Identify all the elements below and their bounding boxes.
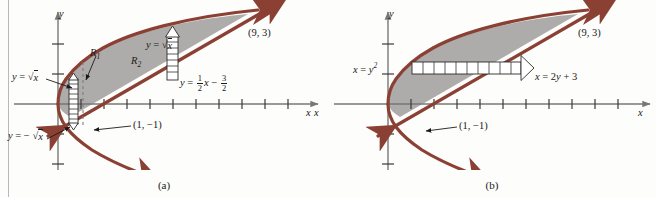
vertical-strip-r1 bbox=[69, 73, 78, 130]
panel-a: y = √x y = − √x y = √x R1 R2 y = 12x − 3… bbox=[0, 0, 328, 197]
figure-container: y = √x y = − √x y = √x R1 R2 y = 12x − 3… bbox=[0, 0, 656, 197]
leader-point-low-a bbox=[94, 126, 131, 130]
label-line-b: x = 2y + 3 bbox=[535, 72, 577, 83]
label-parabola-b: x = y2 bbox=[353, 62, 377, 75]
label-x-axis-right-a: x bbox=[306, 108, 311, 119]
caption-b: (b) bbox=[328, 179, 656, 191]
label-region-1: R1 bbox=[90, 48, 100, 61]
label-point-1-neg1-b: (1, −1) bbox=[459, 121, 488, 132]
label-y-axis-a: y bbox=[59, 9, 64, 20]
label-curve-upper-left-a: y = √x bbox=[12, 72, 38, 83]
label-region-2: R2 bbox=[131, 56, 141, 69]
label-point-9-3-a: (9, 3) bbox=[248, 28, 271, 39]
panel-b-graphic bbox=[328, 0, 656, 197]
panel-b: x = y2 x = 2y + 3 (9, 3) (1, −1) y x x (… bbox=[328, 0, 656, 197]
caption-a: (a) bbox=[0, 179, 328, 191]
label-x-axis-right-b: x bbox=[638, 108, 643, 119]
label-line-a: y = 12x − 32 bbox=[180, 74, 228, 93]
label-point-1-neg1-a: (1, −1) bbox=[133, 120, 162, 131]
leader-point-low-b bbox=[426, 127, 457, 131]
label-curve-upper-a: y = √x bbox=[146, 40, 172, 51]
panel-a-graphic bbox=[0, 0, 328, 197]
label-curve-lower-a: y = − √x bbox=[8, 131, 43, 142]
vertical-strip-r2 bbox=[166, 26, 180, 80]
label-y-axis-b: y bbox=[389, 9, 394, 20]
label-point-9-3-b: (9, 3) bbox=[578, 28, 601, 39]
label-x-axis-left-b: x bbox=[314, 108, 319, 119]
